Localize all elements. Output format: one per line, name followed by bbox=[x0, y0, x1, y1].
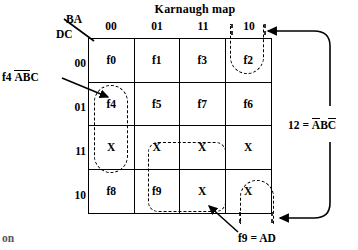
karnaugh-grid: f0 f1 f3 f2 f4 f5 f7 f6 X X X X f8 f9 X … bbox=[88, 38, 272, 214]
annotation-f9: f9 = AD bbox=[238, 232, 276, 244]
column-header-11: 11 bbox=[180, 20, 226, 32]
annotation-12-term-b: B bbox=[320, 119, 328, 131]
cell-r1c2[interactable]: f7 bbox=[180, 83, 226, 127]
annotation-12-term-a: A bbox=[312, 118, 320, 131]
cell-r0c3[interactable]: f2 bbox=[226, 39, 272, 83]
cell-r2c1[interactable]: X bbox=[135, 126, 181, 170]
karnaugh-map-figure: Karnaugh map BA DC 00 01 11 10 00 01 11 … bbox=[0, 0, 358, 250]
cell-r0c2[interactable]: f3 bbox=[180, 39, 226, 83]
cell-r1c1[interactable]: f5 bbox=[135, 83, 181, 127]
annotation-12-term-c: C bbox=[328, 118, 336, 131]
cell-r0c0[interactable]: f0 bbox=[89, 39, 135, 83]
figure-title: Karnaugh map bbox=[130, 2, 260, 17]
cell-r3c1[interactable]: f9 bbox=[135, 170, 181, 214]
cell-r2c0[interactable]: X bbox=[89, 126, 135, 170]
cell-r2c2[interactable]: X bbox=[180, 126, 226, 170]
cell-r0c1[interactable]: f1 bbox=[135, 39, 181, 83]
wrap-connector-top bbox=[268, 31, 330, 106]
column-header-00: 00 bbox=[88, 20, 134, 32]
cell-r1c3[interactable]: f6 bbox=[226, 83, 272, 127]
annotation-12-equals: = bbox=[302, 119, 309, 131]
cell-r2c3[interactable]: X bbox=[226, 126, 272, 170]
annotation-f4-prefix: f4 bbox=[2, 71, 12, 83]
annotation-f4: f4 ABC bbox=[2, 70, 39, 83]
row-header-00: 00 bbox=[56, 57, 86, 69]
cell-r3c0[interactable]: f8 bbox=[89, 170, 135, 214]
annotation-12: 12 = ABC bbox=[288, 118, 336, 131]
wrap-connector-bottom bbox=[280, 142, 330, 218]
cell-r3c2[interactable]: X bbox=[180, 170, 226, 214]
column-header-01: 01 bbox=[134, 20, 180, 32]
row-header-11: 11 bbox=[56, 145, 86, 157]
cell-r1c0[interactable]: f4 bbox=[89, 83, 135, 127]
annotation-f4-term-a: A bbox=[14, 70, 22, 83]
cell-r3c3[interactable]: X bbox=[226, 170, 272, 214]
annotation-f4-term-c: C bbox=[30, 71, 38, 83]
annotation-12-number: 12 bbox=[288, 119, 300, 131]
row-header-10: 10 bbox=[56, 189, 86, 201]
column-header-10: 10 bbox=[226, 20, 272, 32]
row-header-01: 01 bbox=[56, 101, 86, 113]
page-text-fragment: on bbox=[2, 232, 14, 244]
